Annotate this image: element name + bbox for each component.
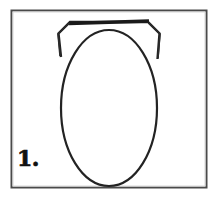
figure-number-label: 1.: [17, 147, 39, 169]
panel-border: [12, 11, 207, 188]
oval-body: [61, 30, 157, 186]
panel-border-inner: [13, 12, 205, 186]
cap-top-bar: [69, 21, 149, 24]
figure-panel: 1.: [0, 0, 218, 200]
